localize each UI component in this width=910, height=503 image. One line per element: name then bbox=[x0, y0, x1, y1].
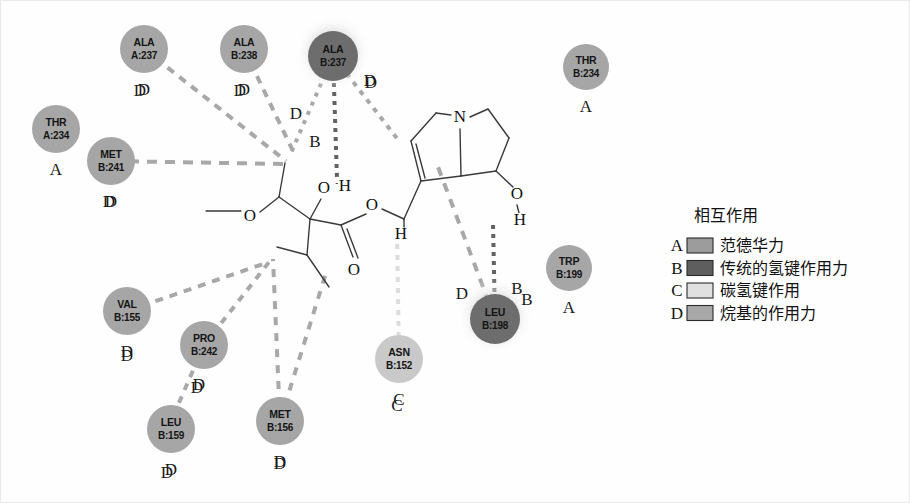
interaction-letter-i-pro-leu-159: D bbox=[161, 463, 173, 482]
residue-chain-number: B:159 bbox=[158, 430, 185, 441]
residue-name: ASN bbox=[388, 346, 410, 358]
legend-label-van-der-waals: 范德华力 bbox=[720, 237, 784, 254]
ligand-bond bbox=[488, 109, 509, 138]
ligand-bond bbox=[341, 214, 366, 225]
interaction-letter-i-leu-b-198-alkyl: D bbox=[456, 284, 468, 303]
residue-node-ala-b-238[interactable]: ALAB:238 bbox=[220, 25, 268, 73]
residue-node-asn-b-152[interactable]: ASNB:152 bbox=[375, 335, 423, 383]
residue-name: THR bbox=[576, 54, 598, 66]
residue-node-thr-a-234[interactable]: THRA:234 bbox=[32, 105, 80, 153]
residue-name: VAL bbox=[117, 298, 137, 310]
residue-name: LEU bbox=[485, 306, 505, 318]
legend-label-alkyl: 烷基的作用力 bbox=[720, 305, 816, 322]
legend-entry-alkyl[interactable]: D烷基的作用力 bbox=[671, 304, 816, 323]
residue-node-ala-b-237[interactable]: ALAB:237 bbox=[295, 15, 371, 91]
atom-label-o_me: O bbox=[244, 206, 256, 225]
interaction-i-met-b-241 bbox=[111, 161, 283, 164]
interaction-letter-i-met-b-241: D bbox=[103, 192, 115, 211]
residue-node-pro-b-242[interactable]: PROB:242 bbox=[180, 321, 228, 369]
legend-entry-conventional-hydrogen-bond[interactable]: B传统的氢键作用力 bbox=[671, 259, 848, 278]
residue-name: TRP bbox=[559, 255, 580, 267]
residue-chain-number: B:242 bbox=[191, 346, 218, 357]
atom-label-o_oh: O bbox=[511, 184, 523, 203]
residue-type-letter-thr-b-234: A bbox=[580, 97, 593, 116]
residue-type-letter-leu-b-198: B bbox=[521, 290, 532, 309]
residue-name: ALA bbox=[323, 43, 345, 55]
residue-nodes-layer: ALAA:237ALAB:238ALAB:237THRB:234THRA:234… bbox=[32, 15, 609, 453]
ligand-bond bbox=[307, 255, 329, 287]
residue-chain-number: A:234 bbox=[43, 130, 70, 141]
legend-letter-C: C bbox=[671, 281, 682, 300]
interaction-line bbox=[144, 49, 286, 161]
ligand-bond bbox=[416, 144, 425, 178]
legend-letter-D: D bbox=[671, 304, 683, 323]
interaction-diagram-canvas: NOO-HOOHOH ALAA:237ALAB:238ALAB:237THRB:… bbox=[1, 1, 910, 503]
ligand-bond bbox=[470, 109, 488, 117]
residue-name: MET bbox=[100, 148, 122, 160]
ligand-bond bbox=[279, 197, 310, 219]
residue-node-met-b-241[interactable]: METB:241 bbox=[87, 137, 135, 185]
interaction-letter-i-ala-b-237-right: D bbox=[364, 71, 376, 90]
diagram-frame: NOO-HOOHOH ALAA:237ALAB:238ALAB:237THRB:… bbox=[0, 0, 910, 503]
ligand-bond bbox=[436, 113, 451, 115]
interaction-letter-i-ala-b-237-left: D bbox=[290, 104, 302, 123]
ligand-bond bbox=[461, 171, 496, 176]
residue-name: MET bbox=[269, 408, 291, 420]
atom-label-h_oh: H bbox=[514, 210, 526, 229]
residue-chain-number: B:237 bbox=[320, 57, 347, 68]
residue-type-letter-thr-a-234: A bbox=[50, 160, 63, 179]
residue-chain-number: B:234 bbox=[573, 68, 600, 79]
interaction-letter-i-pro-b-242: D bbox=[191, 378, 203, 397]
ligand-bond bbox=[411, 141, 421, 181]
interaction-letter-i-ala-a-237: D bbox=[134, 81, 146, 100]
legend-letter-A: A bbox=[671, 236, 684, 255]
legend-swatch-alkyl bbox=[687, 306, 713, 321]
legend-entry-van-der-waals[interactable]: A范德华力 bbox=[671, 236, 784, 255]
legend-entry-carbon-hydrogen-bond[interactable]: C碳氢键作用 bbox=[671, 281, 800, 300]
atom-label-o_dbl: O bbox=[348, 260, 360, 279]
residue-chain-number: B:152 bbox=[386, 360, 413, 371]
interaction-letter-i-leu-b-198-hbond: B bbox=[511, 279, 522, 298]
legend-label-conventional-hydrogen-bond: 传统的氢键作用力 bbox=[720, 260, 848, 277]
residue-node-thr-b-234[interactable]: THRB:234 bbox=[563, 44, 609, 90]
residue-chain-number: B:198 bbox=[482, 320, 509, 331]
ligand-bond bbox=[421, 176, 461, 181]
interaction-line bbox=[111, 161, 283, 164]
residue-node-ala-a-237[interactable]: ALAA:237 bbox=[120, 25, 168, 73]
ligand-bond bbox=[460, 129, 461, 176]
ligand-bond bbox=[310, 219, 341, 225]
interaction-line bbox=[273, 259, 280, 421]
atom-label-h_hb: H bbox=[339, 176, 351, 195]
atom-label-n1: N bbox=[454, 107, 466, 126]
residue-chain-number: B:155 bbox=[114, 312, 141, 323]
residue-type-letter-trp-b-199: A bbox=[563, 298, 576, 317]
residue-node-leu-b-159[interactable]: LEUB:159 bbox=[147, 405, 195, 453]
interaction-letter-i-ala-b-238: D bbox=[234, 81, 246, 100]
legend-swatch-carbon-hydrogen-bond bbox=[687, 283, 713, 298]
interaction-i-ala-a-237 bbox=[144, 49, 286, 161]
ligand-bond bbox=[279, 163, 285, 197]
atom-label-h_ch: H bbox=[395, 224, 407, 243]
legend-letter-B: B bbox=[671, 259, 682, 278]
ligand-bond bbox=[310, 199, 321, 219]
interaction-letter-i-asn-b-152: C bbox=[391, 396, 402, 415]
interaction-i-met-b-156-a bbox=[273, 259, 280, 421]
residue-node-trp-b-199[interactable]: TRPB:199 bbox=[546, 245, 592, 291]
residue-chain-number: A:237 bbox=[131, 50, 158, 61]
residue-name: LEU bbox=[161, 416, 181, 428]
residue-name: ALA bbox=[134, 36, 156, 48]
ligand-bond bbox=[260, 197, 279, 212]
residue-name: THR bbox=[46, 116, 68, 128]
legend-title: 相互作用 bbox=[694, 207, 758, 224]
interaction-lines-layer bbox=[111, 49, 495, 421]
ligand-bond bbox=[496, 138, 509, 171]
atom-label-o_h: O bbox=[318, 178, 330, 197]
residue-node-met-b-156[interactable]: METB:156 bbox=[256, 397, 304, 445]
residue-name: ALA bbox=[234, 36, 256, 48]
residue-chain-number: B:241 bbox=[98, 162, 125, 173]
ligand-bond bbox=[382, 209, 404, 219]
residue-name: PRO bbox=[193, 332, 215, 344]
legend: 相互作用A范德华力B传统的氢键作用力C碳氢键作用D烷基的作用力 bbox=[671, 207, 848, 323]
residue-node-val-b-155[interactable]: VALB:155 bbox=[103, 287, 151, 335]
legend-swatch-van-der-waals bbox=[687, 238, 713, 253]
